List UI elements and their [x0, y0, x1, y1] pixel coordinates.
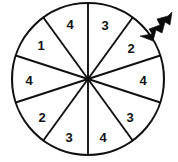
sector-label-6: 2 [38, 110, 45, 125]
arrow-pointer[interactable] [140, 12, 172, 41]
arrow-pointer-head [140, 12, 172, 41]
sector-label-4: 4 [99, 130, 107, 145]
sector-label-3: 3 [126, 110, 133, 125]
sector-label-8: 1 [37, 38, 44, 53]
spinner-figure: 3243432414 [0, 0, 178, 162]
sector-label-5: 3 [65, 130, 72, 145]
sector-label-2: 4 [139, 73, 147, 88]
spinner-canvas: 3243432414 [0, 0, 178, 162]
sector-label-9: 4 [66, 17, 74, 32]
sector-label-1: 2 [127, 41, 134, 56]
sector-label-7: 4 [25, 73, 33, 88]
sector-label-0: 3 [101, 18, 108, 33]
